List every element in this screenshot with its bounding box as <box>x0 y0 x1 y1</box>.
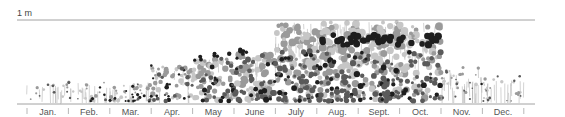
plant-dot <box>492 78 495 81</box>
plant-dot <box>47 83 50 86</box>
plant-dot <box>291 81 294 84</box>
plant-dot <box>410 98 414 102</box>
plant-dot <box>483 82 485 84</box>
plant-dot <box>114 97 117 100</box>
plant-dot <box>169 83 171 85</box>
plant-dot <box>85 84 87 86</box>
plant-dot <box>332 59 337 64</box>
plant-dot <box>99 86 101 88</box>
plant-dot <box>178 73 180 75</box>
plant-dot <box>157 67 160 70</box>
plant-dot <box>353 41 360 48</box>
plant-dot <box>399 78 404 83</box>
plant-dot <box>437 83 442 88</box>
plant-dot <box>329 21 333 25</box>
plant-dot <box>273 80 276 83</box>
plant-dot <box>299 79 305 85</box>
plant-dot <box>425 61 431 67</box>
plant-dot <box>219 99 223 103</box>
plant-dot <box>497 75 499 77</box>
plant-dot <box>462 66 465 69</box>
plant-dot <box>316 97 322 103</box>
plant-dot <box>211 82 214 85</box>
plant-dot <box>339 98 343 102</box>
plant-dot <box>419 53 423 57</box>
plant-dot <box>486 90 487 91</box>
plant-dot <box>235 67 238 70</box>
plant-dot <box>284 92 288 96</box>
plant-dot <box>344 98 349 103</box>
plant-dot <box>331 32 337 38</box>
plant-dot <box>295 58 298 61</box>
plant-dot <box>148 83 152 87</box>
plant-dot <box>132 96 134 98</box>
plant-dot <box>329 25 335 31</box>
month-label: Dec. <box>494 107 513 117</box>
plant-dot <box>387 38 393 44</box>
plant-dot <box>212 53 216 57</box>
plant-dot <box>428 36 433 41</box>
plant-dot <box>407 50 412 55</box>
plant-dot <box>424 76 430 82</box>
plant-dot <box>354 33 361 40</box>
plant-dot <box>201 98 205 102</box>
plant-dot <box>325 51 330 56</box>
plant-dot <box>277 65 283 71</box>
plant-dot <box>291 41 296 46</box>
plant-dot <box>360 51 364 55</box>
plant-dot <box>287 75 290 78</box>
plant-dot <box>451 77 453 79</box>
plant-dot <box>489 87 491 89</box>
plant-dot <box>293 75 296 78</box>
plant-dot <box>441 77 444 80</box>
plant-dot <box>325 76 329 80</box>
plant-dot <box>387 96 392 101</box>
plant-dot <box>452 75 454 77</box>
plant-dot <box>287 57 291 61</box>
plant-dot <box>274 47 280 53</box>
plant-dot <box>89 100 92 103</box>
plant-dot <box>161 76 164 79</box>
plant-dot <box>229 69 232 72</box>
plant-dot <box>164 99 168 103</box>
plant-dot <box>323 63 328 68</box>
plant-dot <box>246 88 250 92</box>
plant-dot <box>304 70 308 74</box>
plant-dot <box>148 99 150 101</box>
plant-dot <box>308 99 312 103</box>
plant-dot <box>354 71 360 77</box>
plant-dot <box>485 88 487 90</box>
plant-dot <box>358 97 363 102</box>
plant-dot <box>201 77 206 82</box>
plant-dot <box>277 72 281 76</box>
plant-dot <box>511 100 512 101</box>
plant-dot <box>277 90 282 95</box>
plant-dot <box>262 88 267 93</box>
plant-dot <box>136 86 139 89</box>
plant-dot <box>363 77 369 83</box>
plant-dot <box>219 57 223 61</box>
plant-dot <box>319 37 326 44</box>
plant-dot <box>358 83 364 89</box>
plant-dot <box>61 95 64 98</box>
plant-dot <box>432 80 437 85</box>
plant-dot <box>319 81 323 85</box>
plant-dot <box>104 98 107 101</box>
plant-dot <box>435 93 439 97</box>
plant-stem <box>469 82 470 97</box>
plant-dot <box>348 76 351 79</box>
plant-dot <box>383 93 388 98</box>
plant-dot <box>273 61 278 66</box>
plant-dot <box>435 23 443 31</box>
plant-dot <box>435 63 440 68</box>
plant-dot <box>518 75 521 78</box>
plant-dot <box>444 78 446 80</box>
plant-dot <box>233 90 238 95</box>
plant-dot <box>281 33 285 37</box>
plant-dot <box>173 94 177 98</box>
plant-dot <box>475 74 477 76</box>
plant-dot <box>125 100 127 102</box>
plant-dot <box>401 90 406 95</box>
plant-dot <box>238 55 243 60</box>
plant-dot <box>261 71 267 77</box>
